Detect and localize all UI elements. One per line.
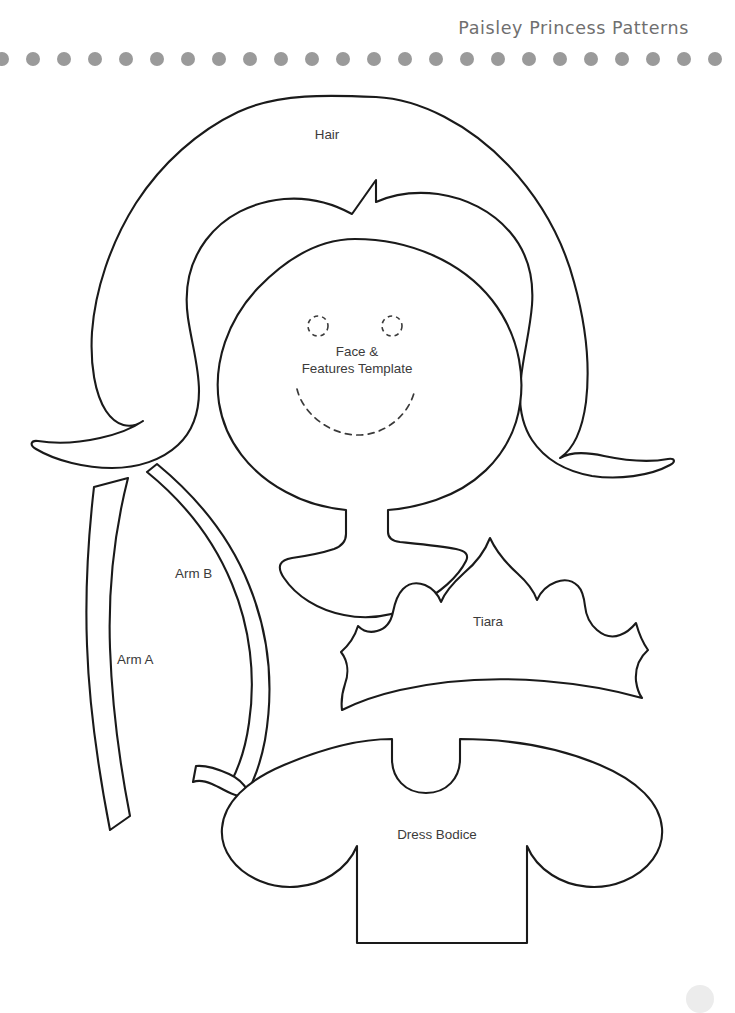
label-arm-b: Arm B <box>175 565 212 582</box>
label-tiara: Tiara <box>473 613 503 630</box>
label-face-line-2: Features Template <box>302 360 413 377</box>
arm-b-piece[interactable] <box>147 464 269 791</box>
label-face-line-1: Face & <box>302 343 413 360</box>
label-arm-a: Arm A <box>117 651 153 668</box>
label-hair: Hair <box>315 126 340 143</box>
label-face: Face & Features Template <box>302 343 413 377</box>
label-dress-bodice: Dress Bodice <box>397 826 477 843</box>
